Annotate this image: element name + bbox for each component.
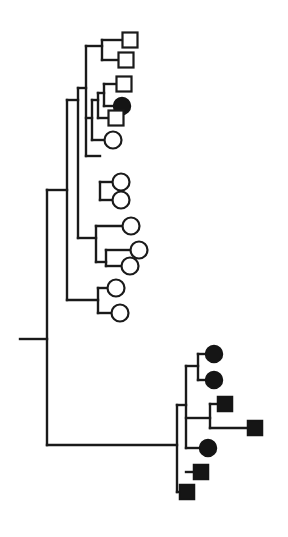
open-circle-leaf-icon <box>108 280 125 297</box>
open-circle-leaf-icon <box>112 305 129 322</box>
phylogenetic-tree-diagram <box>0 0 288 537</box>
open-square-leaf-icon <box>119 53 134 68</box>
open-circle-leaf-icon <box>105 132 122 149</box>
open-square-leaf-icon <box>117 77 132 92</box>
open-circle-leaf-icon <box>113 174 130 191</box>
filled-square-leaf-icon <box>180 485 195 500</box>
open-circle-leaf-icon <box>123 218 140 235</box>
filled-square-leaf-icon <box>218 397 233 412</box>
tree-leaves <box>105 33 263 500</box>
open-square-leaf-icon <box>123 33 138 48</box>
filled-circle-leaf-icon <box>206 346 223 363</box>
filled-circle-leaf-icon <box>206 372 223 389</box>
tree-svg <box>0 0 288 537</box>
open-square-leaf-icon <box>109 111 124 126</box>
open-circle-leaf-icon <box>122 258 139 275</box>
filled-square-leaf-icon <box>194 465 209 480</box>
open-circle-leaf-icon <box>113 192 130 209</box>
open-circle-leaf-icon <box>131 242 148 259</box>
filled-circle-leaf-icon <box>200 440 217 457</box>
filled-square-leaf-icon <box>248 421 263 436</box>
